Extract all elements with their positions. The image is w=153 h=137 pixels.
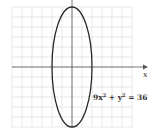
x-axis-arrow-icon (143, 65, 148, 70)
equation-part-2: + y (106, 93, 123, 102)
ellipse-chart: x 9x2 + y2 = 36 (0, 0, 153, 137)
equation-part-1: 9x (93, 93, 103, 102)
equation-label: 9x2 + y2 = 36 (93, 92, 148, 102)
equation-part-3: = 36 (126, 93, 148, 102)
x-axis-label: x (143, 70, 148, 79)
